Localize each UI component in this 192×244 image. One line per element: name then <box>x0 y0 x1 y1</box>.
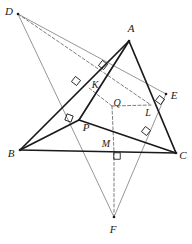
segment-Q-M <box>112 106 114 152</box>
heavy-segments-group <box>20 41 176 153</box>
segment-P-C <box>79 120 176 153</box>
segment-B-P <box>20 120 79 150</box>
vertex-dot-B <box>19 149 22 152</box>
segment-B-C <box>20 150 176 153</box>
point-label-A: A <box>128 23 135 34</box>
segment-Q-K <box>89 88 112 106</box>
vertex-dots-group <box>17 13 178 219</box>
vertex-dot-A <box>128 40 131 43</box>
point-label-F: F <box>110 224 117 235</box>
geometry-canvas <box>0 0 192 244</box>
segment-A-C <box>129 41 176 153</box>
point-label-E: E <box>171 90 178 101</box>
point-label-P: P <box>83 122 90 133</box>
point-label-M: M <box>102 139 110 149</box>
vertex-dot-E <box>165 93 168 96</box>
vertex-dot-F <box>113 216 116 219</box>
point-label-D: D <box>5 6 13 17</box>
point-label-K: K <box>92 80 99 90</box>
point-label-B: B <box>8 148 15 159</box>
right-angle-at-M <box>114 153 121 160</box>
geometry-figure: ABCDEFKLPQM <box>0 0 192 244</box>
right-angle-at-K <box>71 76 80 85</box>
vertex-dot-C <box>175 152 178 155</box>
vertex-dot-D <box>17 13 20 16</box>
light-segments-group <box>18 14 166 217</box>
segment-P-A <box>79 41 129 120</box>
point-label-C: C <box>179 150 186 161</box>
point-label-Q: Q <box>113 98 120 108</box>
point-label-L: L <box>145 108 151 118</box>
